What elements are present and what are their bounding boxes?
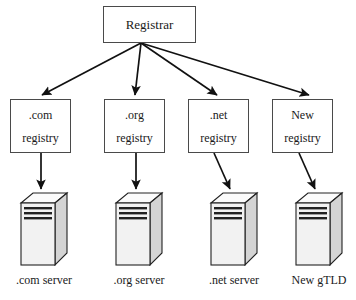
server-caption-org: .org server <box>84 273 194 288</box>
registry-tld-label: .com <box>29 109 53 121</box>
registry-node-net[interactable]: .net registry <box>188 99 249 153</box>
edge-new-registry-to-new-gtld-server <box>299 153 315 189</box>
registry-type-label: registry <box>200 132 237 144</box>
server-caption-new-gtld: New gTLD <box>264 273 356 288</box>
server-tower-icon[interactable] <box>114 191 164 267</box>
registry-tld-label: .net <box>210 109 228 121</box>
edge-registrar-to-new-registry <box>141 43 309 95</box>
diagram-canvas: Registrar .com registry .org registry .n… <box>0 0 356 300</box>
registry-node-com[interactable]: .com registry <box>10 99 71 153</box>
registry-node-new[interactable]: New registry <box>272 99 333 153</box>
edge-registrar-to-com-registry <box>42 43 141 95</box>
registry-node-org[interactable]: .org registry <box>104 99 165 153</box>
edge-registrar-to-net-registry <box>141 43 217 95</box>
registrar-label: Registrar <box>126 18 174 31</box>
registry-type-label: registry <box>22 132 59 144</box>
registry-tld-label: New <box>291 109 314 121</box>
server-tower-icon[interactable] <box>294 191 344 267</box>
registry-tld-label: .org <box>125 109 144 121</box>
server-tower-icon[interactable] <box>209 191 259 267</box>
edge-net-registry-to-net-server <box>214 153 230 189</box>
registrar-node[interactable]: Registrar <box>103 6 196 43</box>
registry-type-label: registry <box>116 132 153 144</box>
registry-type-label: registry <box>284 132 321 144</box>
server-tower-icon[interactable] <box>19 191 69 267</box>
edge-registrar-to-org-registry <box>135 43 141 95</box>
